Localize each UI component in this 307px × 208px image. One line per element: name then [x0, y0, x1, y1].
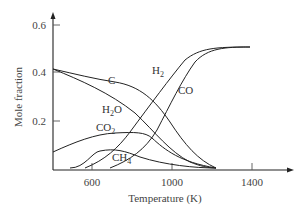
mole-fraction-chart: 0.6 0.4 0.2 600 1000 1400 Temperature (K…	[0, 0, 307, 208]
y-axis	[51, 12, 61, 170]
x-tick-1400: 1400	[241, 176, 264, 188]
curve-co	[110, 47, 250, 168]
y-axis-title: Mole fraction	[12, 66, 24, 127]
label-h2: H2	[152, 64, 164, 79]
x-tick-600: 600	[84, 176, 101, 188]
x-tick-1000: 1000	[161, 176, 184, 188]
label-co: CO	[178, 84, 193, 96]
x-axis-title: Temperature (K)	[128, 192, 202, 205]
label-c: C	[108, 74, 115, 86]
y-tick-0.4: 0.4	[32, 66, 46, 78]
y-tick-0.2: 0.2	[32, 115, 46, 127]
label-h2o: H2O	[102, 103, 122, 118]
y-axis-arrow-icon	[51, 12, 56, 19]
x-axis-arrow-icon	[287, 168, 294, 173]
y-tick-0.6: 0.6	[32, 19, 46, 31]
